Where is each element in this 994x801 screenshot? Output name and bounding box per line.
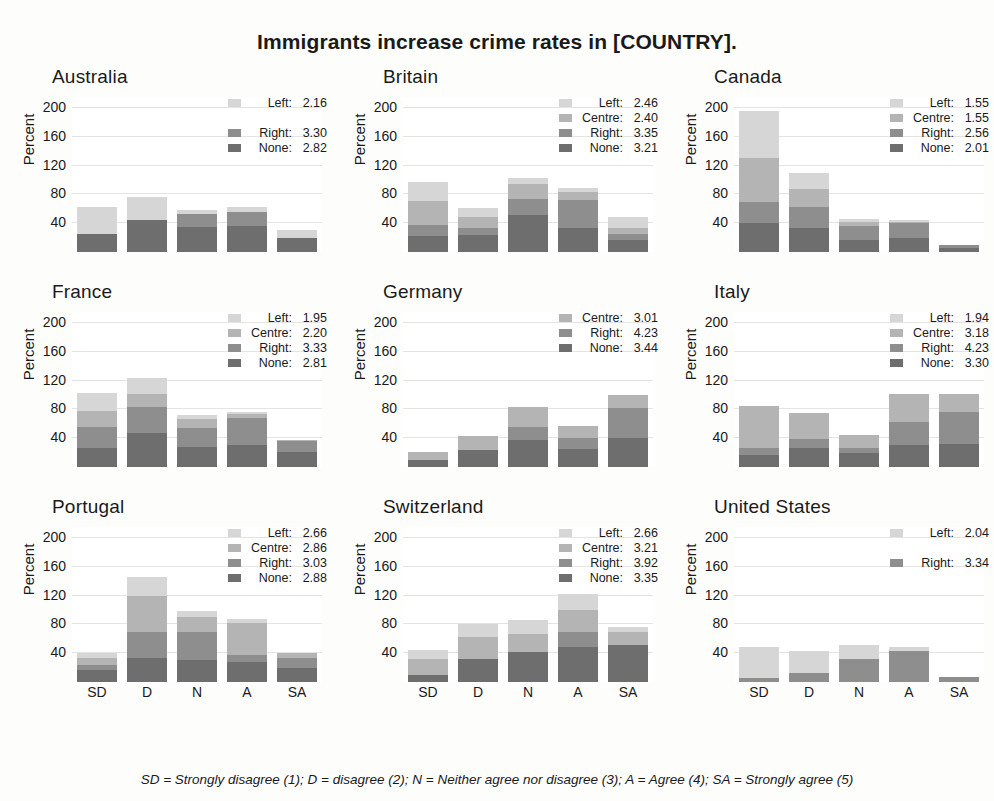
bar-sa xyxy=(277,230,317,252)
bar-segment-none xyxy=(889,445,929,467)
bar-segment-left xyxy=(458,624,498,637)
bar-segment-none xyxy=(277,668,317,682)
y-axis-tick: 160 xyxy=(43,558,66,574)
bar-segment-right xyxy=(839,226,879,240)
x-axis-tick: N xyxy=(508,684,548,700)
bar-segment-none xyxy=(458,659,498,682)
bar-segment-centre xyxy=(408,659,448,675)
bar-segment-left xyxy=(127,577,167,596)
x-axis-tick: A xyxy=(227,684,267,700)
bar-segment-left xyxy=(408,650,448,659)
legend-item-none: None:2.88 xyxy=(228,571,327,585)
bar-segment-none xyxy=(177,660,217,682)
bar-segment-left xyxy=(508,620,548,634)
legend-swatch-icon xyxy=(559,144,572,152)
legend-label: Centre: xyxy=(246,541,292,555)
y-axis-tick: 200 xyxy=(43,529,66,545)
legend-label: Right: xyxy=(577,326,623,340)
legend-item-none: None:3.30 xyxy=(890,356,989,370)
bar-segment-centre xyxy=(77,411,117,427)
bar-segment-right xyxy=(177,428,217,447)
bar-segment-right xyxy=(77,427,117,449)
bar-segment-none xyxy=(127,658,167,683)
bar-n xyxy=(508,178,548,252)
bar-segment-none xyxy=(558,449,598,467)
bar-segment-centre xyxy=(839,435,879,449)
legend-swatch-icon xyxy=(228,529,241,537)
legend-swatch-icon xyxy=(890,114,903,122)
legend-swatch-icon xyxy=(890,144,903,152)
legend-label: Left: xyxy=(908,96,954,110)
y-axis-tick: 120 xyxy=(705,372,728,388)
chart-panel-united-states: United StatesPercent4080120160200SDDNASA… xyxy=(662,496,993,711)
x-axis-tick: A xyxy=(558,684,598,700)
bar-segment-centre xyxy=(558,192,598,200)
panel-title: Portugal xyxy=(52,496,124,518)
bar-a xyxy=(889,647,929,682)
legend-value: 2.82 xyxy=(297,141,327,155)
bar-sa xyxy=(939,677,979,682)
y-axis-label: Percent xyxy=(20,526,37,614)
y-axis-tick: 120 xyxy=(374,587,397,603)
legend-label: None: xyxy=(908,141,954,155)
legend-swatch-icon xyxy=(890,359,903,367)
chart-panel-grid: AustraliaPercent4080120160200Left:2.16Ri… xyxy=(0,66,994,746)
y-axis-label: Percent xyxy=(682,311,699,399)
bar-segment-right xyxy=(177,214,217,227)
legend-value: 3.35 xyxy=(628,126,658,140)
y-axis-tick: 160 xyxy=(705,558,728,574)
bar-segment-centre xyxy=(789,189,829,206)
legend-item-none: None:2.01 xyxy=(890,141,989,155)
bar-segment-none xyxy=(77,448,117,467)
legend-value: 3.21 xyxy=(628,141,658,155)
legend-value: 1.94 xyxy=(959,311,989,325)
bar-segment-right xyxy=(789,673,829,682)
bar-segment-none xyxy=(839,240,879,252)
bar-sd xyxy=(739,406,779,467)
legend-item-left: Left:1.94 xyxy=(890,311,989,325)
bar-segment-centre xyxy=(458,217,498,228)
legend-label: None: xyxy=(246,571,292,585)
legend-value: 1.55 xyxy=(959,111,989,125)
bar-segment-none xyxy=(939,444,979,467)
legend-value: 3.21 xyxy=(628,541,658,555)
bar-segment-right xyxy=(277,658,317,667)
bar-sa xyxy=(608,627,648,682)
bar-a xyxy=(558,426,598,467)
legend-item-none: None:2.82 xyxy=(228,141,327,155)
bar-segment-centre xyxy=(739,406,779,448)
bar-segment-none xyxy=(889,238,929,252)
legend: Left:2.16Right:3.30None:2.82 xyxy=(228,96,327,155)
bar-segment-centre xyxy=(408,452,448,460)
bar-d xyxy=(789,651,829,682)
bar-d xyxy=(789,173,829,252)
bar-segment-centre xyxy=(458,436,498,450)
legend-label: Left: xyxy=(577,96,623,110)
legend: Left:2.66Centre:3.21Right:3.92None:3.35 xyxy=(559,526,658,585)
y-axis-label: Percent xyxy=(682,96,699,184)
bar-segment-right xyxy=(889,422,929,446)
bar-sd xyxy=(77,653,117,682)
bar-segment-centre xyxy=(939,394,979,412)
legend-swatch-icon xyxy=(228,329,241,337)
bar-segment-none xyxy=(127,220,167,252)
bar-a xyxy=(889,394,929,467)
legend-swatch-icon xyxy=(890,559,903,567)
bar-segment-right xyxy=(558,438,598,449)
bar-segment-none xyxy=(277,238,317,252)
bar-segment-none xyxy=(458,235,498,252)
chart-panel-australia: AustraliaPercent4080120160200Left:2.16Ri… xyxy=(0,66,331,281)
bar-segment-none xyxy=(227,226,267,252)
bar-segment-none xyxy=(177,447,217,467)
legend-value: 2.81 xyxy=(297,356,327,370)
legend-item-left: Left:1.95 xyxy=(228,311,327,325)
legend-swatch-icon xyxy=(228,99,241,107)
bar-segment-right xyxy=(227,212,267,226)
bar-segment-centre xyxy=(127,394,167,407)
chart-panel-switzerland: SwitzerlandPercent4080120160200SDDNASALe… xyxy=(331,496,662,711)
y-axis-tick: 40 xyxy=(712,214,728,230)
legend-value: 3.44 xyxy=(628,341,658,355)
bar-segment-centre xyxy=(558,426,598,438)
legend-label: Centre: xyxy=(577,541,623,555)
y-axis-label: Percent xyxy=(20,311,37,399)
